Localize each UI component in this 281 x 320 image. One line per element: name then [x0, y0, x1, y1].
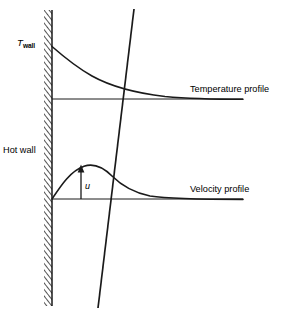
hot-wall-label: Hot wall: [3, 146, 36, 155]
t-wall-symbol: T: [17, 37, 23, 48]
inclined-reference-line: [98, 9, 134, 308]
convection-boundary-layer-diagram: Twall Hot wall Temperature profile Veloc…: [0, 0, 281, 320]
diagram-canvas: [0, 0, 281, 320]
u-velocity-label: u: [85, 182, 90, 191]
hot-wall-hatching: [44, 10, 52, 306]
velocity-profile-label: Velocity profile: [190, 185, 249, 194]
u-velocity-arrow: [78, 165, 85, 200]
t-wall-label: Twall: [17, 38, 35, 48]
t-wall-subscript: wall: [23, 42, 35, 49]
temperature-profile-label: Temperature profile: [190, 85, 269, 94]
